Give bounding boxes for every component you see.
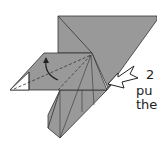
white-corner — [10, 72, 29, 90]
step-number: 2 — [146, 68, 154, 82]
origami-diagram — [0, 0, 157, 144]
instruction-line-2: the — [136, 98, 157, 112]
instruction-line-1: pu — [136, 84, 153, 98]
